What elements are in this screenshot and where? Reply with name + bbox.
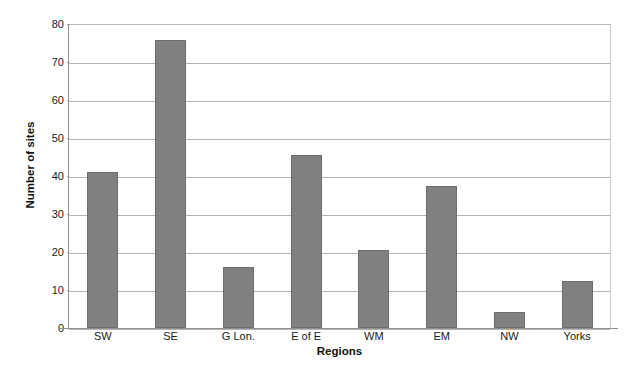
bar (426, 186, 457, 329)
y-axis-tick-labels: 01020304050607080 (38, 0, 64, 372)
y-tick-label: 30 (40, 209, 64, 220)
x-axis-title: Regions (67, 345, 612, 357)
bar (291, 155, 322, 328)
y-axis-title: Number of sites (22, 0, 38, 330)
y-tick-label: 20 (40, 247, 64, 258)
bar (223, 267, 254, 328)
y-tick-label: 50 (40, 133, 64, 144)
y-axis-title-text: Number of sites (24, 122, 36, 209)
bar (358, 250, 389, 328)
y-tick-label: 80 (40, 19, 64, 30)
x-axis-line (60, 328, 618, 329)
plot-area (69, 24, 611, 328)
bar (87, 172, 118, 328)
bar (155, 40, 186, 328)
y-tick-label: 40 (40, 171, 64, 182)
x-tick-label: Yorks (527, 331, 627, 342)
y-tick-label: 70 (40, 57, 64, 68)
bar (562, 281, 593, 328)
bar-series (69, 25, 610, 328)
y-tick-label: 60 (40, 95, 64, 106)
bar (494, 312, 525, 328)
figure-panel-c: C Number of sites 01020304050607080 SWSE… (0, 0, 634, 372)
gridline (69, 329, 610, 330)
y-tick-label: 10 (40, 285, 64, 296)
